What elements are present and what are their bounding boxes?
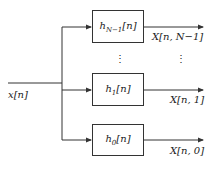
ellipsis-outputs: ⋮ — [176, 54, 186, 64]
output-label-n-minus-1: X[n, N−1] — [152, 32, 203, 42]
filter-box-n-minus-1: hN−1[n] — [92, 10, 144, 43]
output-label-1: X[n, 1] — [170, 95, 204, 105]
output-label-0: X[n, 0] — [170, 146, 204, 156]
ellipsis-filters: ⋮ — [115, 54, 125, 64]
input-label: x[n] — [8, 90, 28, 100]
filter-box-1: h1[n] — [92, 73, 144, 106]
filter-box-0: h0[n] — [92, 124, 144, 156]
